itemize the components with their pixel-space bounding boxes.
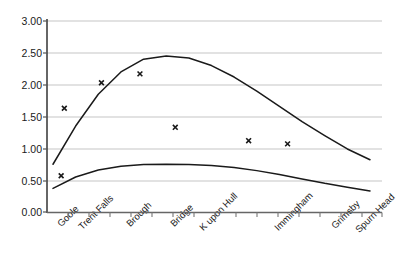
- chart-container: 3.00 2.50 2.00 1.50 1.00 0.50 0.00 Goole…: [0, 0, 409, 276]
- x-axis-ticks: [68, 213, 382, 218]
- gridlines: [47, 21, 382, 181]
- series-lower-curve: [53, 164, 370, 191]
- plot-area: [0, 0, 409, 276]
- series-upper-curve: [53, 56, 370, 164]
- series-observed-points: [59, 71, 290, 178]
